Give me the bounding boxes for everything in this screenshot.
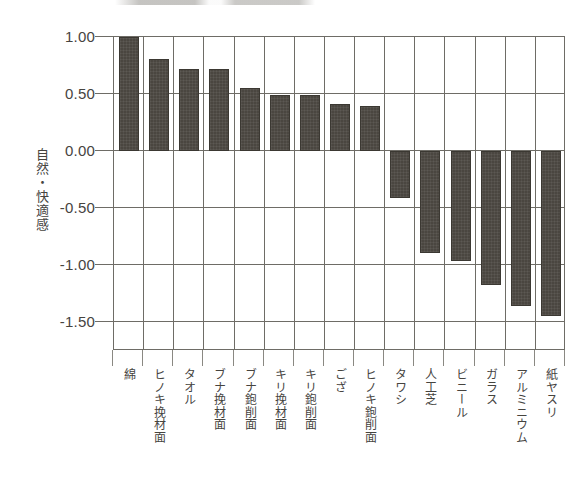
y-tick-label: -1.00 bbox=[21, 256, 95, 273]
x-gridline bbox=[384, 37, 385, 349]
x-gridline bbox=[414, 37, 415, 349]
x-tick-mark bbox=[263, 350, 264, 366]
y-tick-label: 0.00 bbox=[21, 142, 95, 159]
bar bbox=[270, 95, 290, 151]
x-tick-mark bbox=[233, 350, 234, 366]
x-gridline bbox=[143, 37, 144, 349]
bar bbox=[481, 151, 501, 285]
bar bbox=[420, 151, 440, 253]
x-tick-label: ブナ挽材面 bbox=[203, 368, 233, 431]
x-tick-label: 紙ヤスリ bbox=[535, 368, 565, 418]
x-tick-label: アルミニウム bbox=[505, 368, 535, 443]
scan-artifact bbox=[115, 0, 315, 5]
y-axis-tick-labels: 1.000.500.00-0.50-1.00-1.50 bbox=[0, 0, 95, 481]
bar bbox=[179, 69, 199, 151]
y-tick-mark bbox=[95, 207, 113, 208]
plot-area bbox=[113, 36, 565, 350]
y-tick-label: 0.50 bbox=[21, 85, 95, 102]
x-tick-label: タワシ bbox=[384, 368, 414, 406]
y-tick-mark bbox=[95, 36, 113, 37]
x-tick-mark bbox=[353, 350, 354, 366]
x-tick-mark bbox=[172, 350, 173, 366]
x-tick-label: ブナ鉋削面 bbox=[234, 368, 264, 431]
bar bbox=[360, 106, 380, 152]
x-tick-mark bbox=[112, 350, 113, 366]
x-tick-mark bbox=[202, 350, 203, 366]
x-tick-mark bbox=[443, 350, 444, 366]
y-tick-label: -0.50 bbox=[21, 199, 95, 216]
bar bbox=[330, 104, 350, 151]
x-tick-mark bbox=[323, 350, 324, 366]
x-tick-label: 人工芝 bbox=[414, 368, 444, 406]
x-tick-label: ござ bbox=[324, 368, 354, 393]
bar bbox=[390, 151, 410, 198]
bar bbox=[511, 151, 531, 306]
x-gridline bbox=[444, 37, 445, 349]
x-tick-mark bbox=[383, 350, 384, 366]
x-tick-mark bbox=[474, 350, 475, 366]
x-axis-tick-labels: 綿ヒノキ挽材面タオルブナ挽材面ブナ鉋削面キリ挽材面キリ鉋削面ござヒノキ鉋削面タワ… bbox=[113, 368, 565, 480]
x-tick-mark bbox=[293, 350, 294, 366]
x-tick-mark bbox=[564, 350, 565, 366]
y-gridline bbox=[114, 321, 564, 322]
bar bbox=[149, 59, 169, 151]
x-tick-label: タオル bbox=[173, 368, 203, 406]
x-tick-label: 綿 bbox=[113, 368, 143, 381]
x-gridline bbox=[324, 37, 325, 349]
x-tick-label: ガラス bbox=[475, 368, 505, 406]
x-tick-mark bbox=[142, 350, 143, 366]
bar bbox=[300, 95, 320, 151]
bar bbox=[451, 151, 471, 261]
x-tick-label: キリ挽材面 bbox=[264, 368, 294, 431]
x-tick-mark bbox=[504, 350, 505, 366]
x-gridline bbox=[234, 37, 235, 349]
y-tick-mark bbox=[95, 93, 113, 94]
y-tick-mark bbox=[95, 264, 113, 265]
bar bbox=[240, 88, 260, 151]
bar bbox=[209, 69, 229, 151]
x-gridline bbox=[203, 37, 204, 349]
x-gridline bbox=[475, 37, 476, 349]
x-tick-label: ヒノキ鉋削面 bbox=[354, 368, 384, 443]
y-tick-label: -1.50 bbox=[21, 313, 95, 330]
bar bbox=[541, 151, 561, 315]
x-tick-mark bbox=[534, 350, 535, 366]
bar bbox=[119, 37, 139, 151]
chart-figure: 自然・快適感 1.000.500.00-0.50-1.00-1.50 綿ヒノキ挽… bbox=[0, 0, 588, 481]
x-tick-mark bbox=[413, 350, 414, 366]
x-gridline bbox=[173, 37, 174, 349]
x-gridline bbox=[505, 37, 506, 349]
y-tick-mark bbox=[95, 150, 113, 151]
x-gridline bbox=[264, 37, 265, 349]
x-tick-label: ビニール bbox=[444, 368, 474, 418]
x-gridline bbox=[294, 37, 295, 349]
y-tick-mark bbox=[95, 321, 113, 322]
x-tick-label: ヒノキ挽材面 bbox=[143, 368, 173, 443]
x-gridline bbox=[535, 37, 536, 349]
y-tick-label: 1.00 bbox=[21, 28, 95, 45]
x-tick-label: キリ鉋削面 bbox=[294, 368, 324, 431]
x-gridline bbox=[354, 37, 355, 349]
